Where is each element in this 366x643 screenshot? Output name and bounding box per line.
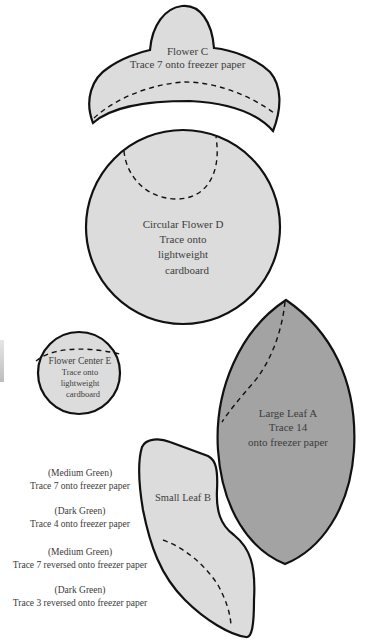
note-4-instruction: Trace 3 reversed onto freezer paper [0,597,160,610]
flower-d-line4: cardboard [118,263,248,278]
note-1-color: (Medium Green) [0,467,160,480]
flower-d-line3: lightweight [118,247,248,262]
note-4: (Dark Green) Trace 3 reversed onto freez… [0,584,160,610]
note-2-color: (Dark Green) [0,505,160,518]
flower-center-e-line2: Trace onto [38,367,122,378]
flower-center-e-line4: cardboard [38,389,122,400]
large-leaf-a-label: Large Leaf A Trace 14 onto freezer paper [228,406,348,449]
note-2-instruction: Trace 4 onto freezer paper [0,518,160,531]
flower-c-name: Flower C [105,45,270,58]
note-1-instruction: Trace 7 onto freezer paper [0,480,160,493]
large-leaf-a-line3: onto freezer paper [228,435,348,449]
note-2: (Dark Green) Trace 4 onto freezer paper [0,505,160,531]
note-3-instruction: Trace 7 reversed onto freezer paper [0,559,160,572]
flower-center-e-line3: lightweight [38,378,122,389]
small-leaf-b-label: Small Leaf B [148,492,218,505]
note-3-color: (Medium Green) [0,546,160,559]
flower-d-line2: Trace onto [118,232,248,247]
flower-center-e-label: Flower Center E Trace onto lightweight c… [38,355,122,400]
flower-center-e-name: Flower Center E [38,355,122,367]
flower-c-instruction: Trace 7 onto freezer paper [105,58,270,71]
note-4-color: (Dark Green) [0,584,160,597]
note-1: (Medium Green) Trace 7 onto freezer pape… [0,467,160,493]
large-leaf-a-line2: Trace 14 [228,420,348,434]
flower-c-label: Flower C Trace 7 onto freezer paper [105,45,270,71]
large-leaf-a-name: Large Leaf A [228,406,348,420]
note-3: (Medium Green) Trace 7 reversed onto fre… [0,546,160,572]
small-leaf-b-name: Small Leaf B [148,492,218,505]
flower-d-name: Circular Flower D [118,217,248,232]
flower-d-label: Circular Flower D Trace onto lightweight… [118,217,248,278]
